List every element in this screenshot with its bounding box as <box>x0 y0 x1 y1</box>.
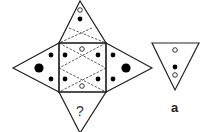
filled-dot-icon <box>111 53 116 58</box>
filled-dot-icon <box>111 77 116 82</box>
large-filled-dot-icon <box>121 63 130 72</box>
pyramid-net-diagram: ? a <box>0 0 203 132</box>
filled-dot-icon <box>63 77 68 82</box>
option-label: a <box>171 100 179 115</box>
open-circle-icon <box>80 84 85 89</box>
open-circle-icon <box>78 8 83 13</box>
filled-dot-icon <box>63 53 68 58</box>
filled-dot-icon <box>49 53 54 58</box>
left-triangle <box>13 43 59 92</box>
filled-dot-icon <box>96 53 101 58</box>
top-triangle <box>59 1 106 43</box>
open-circle-icon <box>80 47 85 52</box>
filled-dot-icon <box>173 65 178 70</box>
filled-dot-icon <box>96 77 101 82</box>
filled-dot-icon <box>49 77 54 82</box>
question-mark-label: ? <box>76 103 84 119</box>
open-circle-icon <box>173 73 178 78</box>
large-filled-dot-icon <box>34 63 43 72</box>
right-triangle <box>106 43 152 92</box>
open-circle-icon <box>173 48 178 53</box>
center-square <box>59 43 106 92</box>
bottom-triangle: ? <box>59 92 106 132</box>
filled-dot-icon <box>78 17 83 22</box>
option-a: a <box>152 43 199 115</box>
